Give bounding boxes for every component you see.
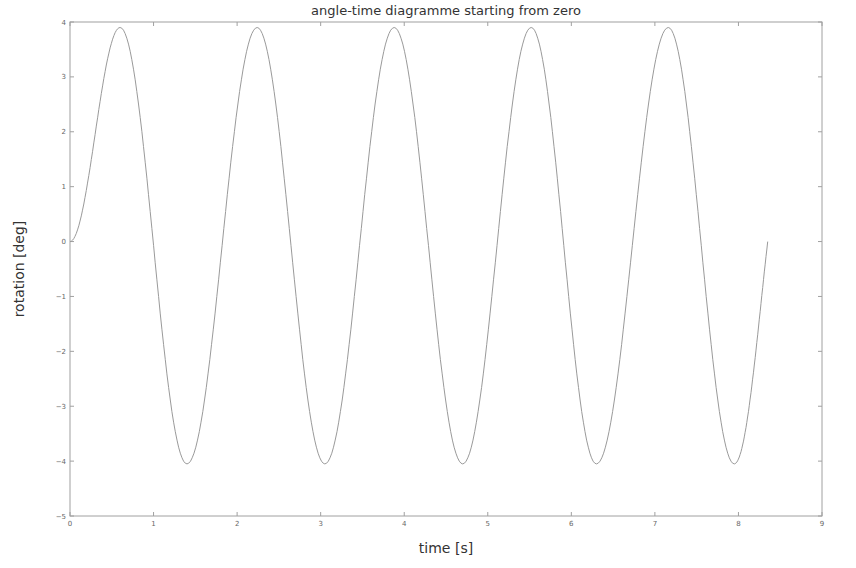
x-tick-label: 1 — [151, 520, 155, 528]
x-tick-label: 4 — [402, 520, 407, 528]
x-tick-label: 0 — [68, 520, 72, 528]
x-tick-label: 7 — [653, 520, 657, 528]
plot-area-frame — [70, 22, 822, 516]
x-tick-label: 5 — [486, 520, 490, 528]
x-tick-label: 9 — [820, 520, 824, 528]
y-tick-label: −3 — [56, 403, 66, 411]
y-axis-label: rotation [deg] — [11, 221, 27, 318]
y-tick-label: −1 — [56, 293, 66, 301]
y-tick-label: 4 — [62, 19, 67, 27]
x-tick-label: 6 — [569, 520, 574, 528]
y-tick-label: −5 — [56, 513, 66, 521]
y-tick-label: 3 — [62, 73, 66, 81]
x-tick-label: 3 — [318, 520, 322, 528]
chart-figure: angle-time diagramme starting from zero … — [0, 0, 856, 568]
y-tick-label: −2 — [56, 348, 66, 356]
x-axis-label: time [s] — [419, 540, 473, 556]
x-tick-label: 2 — [235, 520, 239, 528]
y-tick-label: 0 — [62, 238, 66, 246]
x-tick-label: 8 — [736, 520, 740, 528]
y-tick-label: 2 — [62, 128, 66, 136]
chart-title: angle-time diagramme starting from zero — [311, 3, 581, 18]
y-tick-label: 1 — [62, 183, 66, 191]
y-tick-label: −4 — [56, 458, 67, 466]
